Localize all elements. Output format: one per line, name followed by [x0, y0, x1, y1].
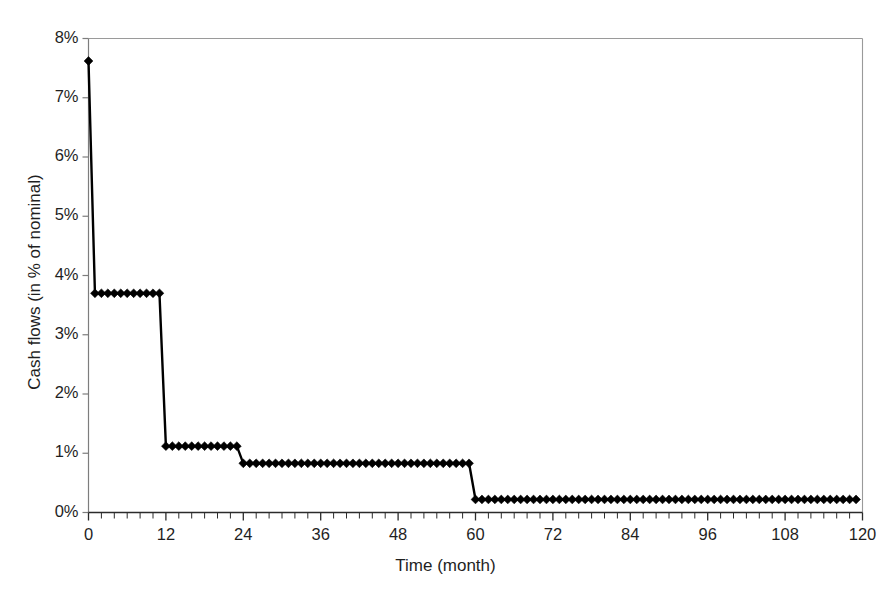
x-tick-label: 48: [368, 525, 428, 544]
y-tick-label: 8%: [33, 28, 79, 47]
x-tick-label: 120: [833, 525, 891, 544]
x-tick-label: 108: [755, 525, 815, 544]
x-tick-label: 0: [59, 525, 119, 544]
x-tick-label: 96: [678, 525, 738, 544]
chart-figure: 0%1%2%3%4%5%6%7%8% 012243648607284961081…: [0, 0, 891, 591]
x-tick-label: 72: [523, 525, 583, 544]
x-tick-label: 24: [213, 525, 273, 544]
x-axis-title: Time (month): [0, 556, 891, 576]
y-tick-label: 0%: [33, 502, 79, 521]
x-tick-label: 84: [600, 525, 660, 544]
data-series-markers: [84, 57, 860, 504]
x-tick-label: 12: [136, 525, 196, 544]
x-tick-label: 60: [446, 525, 506, 544]
chart-plot-area: [0, 0, 891, 591]
data-series-line: [89, 61, 857, 499]
x-tick-label: 36: [291, 525, 351, 544]
y-axis-title: Cash flows (in % of nominal): [25, 72, 45, 492]
